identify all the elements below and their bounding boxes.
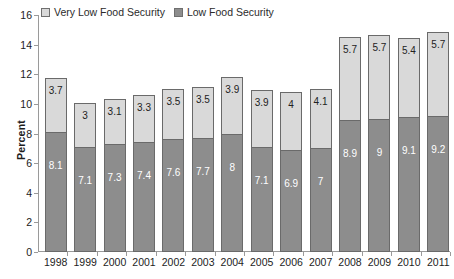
bar-group: 8.13.7 [45, 77, 67, 252]
x-tick-label: 2007 [309, 256, 332, 268]
bar-segment-very-low-food-security: 5.7 [427, 32, 449, 116]
bar-segment-very-low-food-security: 3.3 [133, 95, 155, 144]
x-tick-label: 2001 [132, 256, 155, 268]
bar-segment-very-low-food-security: 5.7 [339, 37, 361, 121]
bar-segment-low-food-security: 7.1 [251, 147, 273, 252]
bar-segment-low-food-security: 7.3 [104, 144, 126, 252]
x-tick-label: 2008 [338, 256, 361, 268]
y-axis-title: Percent [15, 120, 27, 160]
y-tick-label: 6 [26, 157, 32, 169]
bar-value-label-low: 6.9 [281, 179, 301, 189]
bar-group: 7.73.5 [192, 86, 214, 252]
bar-group: 9.15.4 [398, 37, 420, 252]
x-axis-labels: 1998199920002001200220032004200520062007… [38, 256, 450, 276]
bar-segment-very-low-food-security: 4.1 [310, 89, 332, 150]
bar-group: 95.7 [368, 34, 390, 252]
bar-value-label-low: 9 [369, 148, 389, 158]
bar-group: 7.13 [74, 102, 96, 252]
bar-value-label-very-low: 4 [281, 100, 301, 110]
x-tick-label: 1998 [44, 256, 67, 268]
x-tick-label: 1999 [73, 256, 96, 268]
bar-group: 74.1 [310, 88, 332, 252]
bar-segment-very-low-food-security: 3 [74, 103, 96, 147]
bar-segment-very-low-food-security: 5.7 [368, 35, 390, 119]
y-tick-label: 12 [20, 68, 32, 80]
bar-segment-low-food-security: 7 [310, 148, 332, 252]
bar-series-container: 8.13.77.137.33.17.43.37.63.57.73.583.97.… [38, 15, 450, 252]
x-tick-label: 2011 [427, 256, 450, 268]
bar-value-label-very-low: 3.7 [46, 86, 66, 96]
y-tick-mark [34, 252, 38, 253]
y-tick-label: 0 [26, 246, 32, 258]
bar-value-label-very-low: 5.7 [369, 43, 389, 53]
bar-value-label-very-low: 3.9 [222, 85, 242, 95]
bar-segment-low-food-security: 6.9 [280, 150, 302, 252]
bar-value-label-low: 7 [311, 177, 331, 187]
y-tick-label: 4 [26, 187, 32, 199]
bar-value-label-very-low: 4.1 [311, 97, 331, 107]
bar-value-label-low: 8.9 [340, 149, 360, 159]
bar-segment-low-food-security: 8.9 [339, 120, 361, 252]
x-tick-label: 2004 [221, 256, 244, 268]
y-tick-label: 10 [20, 98, 32, 110]
bar-group: 7.33.1 [104, 98, 126, 252]
y-tick-label: 8 [26, 128, 32, 140]
bar-value-label-very-low: 3.9 [252, 98, 272, 108]
bar-value-label-low: 9.1 [399, 146, 419, 156]
bar-value-label-very-low: 5.7 [428, 40, 448, 50]
bar-segment-very-low-food-security: 3.5 [162, 89, 184, 141]
bar-value-label-very-low: 3.3 [134, 103, 154, 113]
bar-segment-low-food-security: 7.7 [192, 138, 214, 252]
y-tick-label: 14 [20, 39, 32, 51]
bar-segment-low-food-security: 7.6 [162, 139, 184, 252]
bar-segment-low-food-security: 9 [368, 119, 390, 252]
bar-value-label-low: 7.4 [134, 171, 154, 181]
bar-value-label-low: 8.1 [46, 161, 66, 171]
bar-value-label-very-low: 3 [75, 111, 95, 121]
y-tick-label: 2 [26, 216, 32, 228]
plot-area: 0246810121416 8.13.77.137.33.17.43.37.63… [38, 15, 450, 252]
bar-group: 83.9 [221, 76, 243, 252]
food-security-stacked-bar-chart: Very Low Food Security Low Food Security… [0, 0, 454, 279]
bar-segment-very-low-food-security: 5.4 [398, 38, 420, 118]
bar-value-label-low: 8 [222, 163, 242, 173]
x-tick-label: 2000 [103, 256, 126, 268]
bar-segment-low-food-security: 8.1 [45, 132, 67, 252]
bar-group: 8.95.7 [339, 36, 361, 252]
bar-segment-low-food-security: 9.1 [398, 117, 420, 252]
bar-value-label-very-low: 3.5 [193, 95, 213, 105]
bar-group: 7.63.5 [162, 88, 184, 252]
bar-value-label-very-low: 3.1 [105, 107, 125, 117]
x-tick-mark [450, 252, 451, 256]
bar-value-label-low: 7.3 [105, 173, 125, 183]
bar-segment-very-low-food-security: 3.1 [104, 99, 126, 145]
bar-segment-low-food-security: 7.4 [133, 142, 155, 252]
bar-value-label-low: 7.6 [163, 168, 183, 178]
bar-segment-very-low-food-security: 3.7 [45, 78, 67, 133]
x-tick-label: 2009 [368, 256, 391, 268]
bar-value-label-very-low: 3.5 [163, 97, 183, 107]
bar-segment-low-food-security: 7.1 [74, 147, 96, 252]
x-tick-label: 2002 [162, 256, 185, 268]
bar-value-label-low: 7.1 [75, 176, 95, 186]
x-tick-label: 2005 [250, 256, 273, 268]
bar-segment-very-low-food-security: 4 [280, 92, 302, 151]
bar-segment-low-food-security: 8 [221, 134, 243, 253]
x-tick-label: 2006 [279, 256, 302, 268]
bar-segment-very-low-food-security: 3.5 [192, 87, 214, 139]
x-tick-label: 2010 [397, 256, 420, 268]
bar-value-label-very-low: 5.7 [340, 45, 360, 55]
bar-segment-very-low-food-security: 3.9 [251, 90, 273, 148]
bar-value-label-low: 7.1 [252, 176, 272, 186]
x-tick-label: 2003 [191, 256, 214, 268]
bar-group: 7.43.3 [133, 94, 155, 252]
bar-value-label-low: 9.2 [428, 145, 448, 155]
bar-group: 9.25.7 [427, 31, 449, 252]
y-tick-label: 16 [20, 9, 32, 21]
bar-group: 7.13.9 [251, 89, 273, 252]
bar-value-label-low: 7.7 [193, 167, 213, 177]
bar-value-label-very-low: 5.4 [399, 46, 419, 56]
bar-group: 6.94 [280, 91, 302, 252]
bar-segment-low-food-security: 9.2 [427, 116, 449, 252]
bar-segment-very-low-food-security: 3.9 [221, 77, 243, 135]
